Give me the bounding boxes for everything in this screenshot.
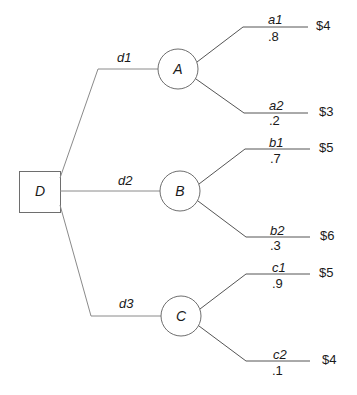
outcome-a1-probability: .8: [268, 30, 279, 44]
outcome-b1-probability: .7: [270, 152, 281, 166]
outcome-b1-line: [199, 149, 310, 184]
decision-d3-label: d3: [119, 297, 133, 311]
outcome-c1-probability: .9: [272, 277, 283, 291]
outcome-a2-payoff: $3: [319, 105, 333, 119]
decision-node-label: D: [25, 184, 55, 198]
outcome-a1-payoff: $4: [316, 19, 330, 33]
outcome-b2-payoff: $6: [320, 229, 334, 243]
outcome-c2-payoff: $4: [322, 353, 336, 367]
outcome-a2-label: a2: [269, 99, 283, 113]
outcome-a2-line: [196, 79, 308, 113]
outcome-b2-line: [198, 201, 310, 237]
branch-d1-line: [60, 69, 158, 178]
outcome-a1-line: [197, 27, 308, 62]
decision-d2-label: d2: [118, 174, 132, 188]
outcome-b1-payoff: $5: [319, 141, 333, 155]
outcome-b1-label: b1: [269, 136, 283, 150]
outcome-b2-label: b2: [270, 224, 284, 238]
outcome-a1-label: a1: [268, 13, 282, 27]
branch-d3-line: [60, 205, 161, 316]
outcome-a2-probability: .2: [269, 114, 280, 128]
outcome-c1-label: c1: [272, 261, 286, 275]
chance-node-c-label: C: [166, 309, 196, 323]
outcome-c2-line: [199, 326, 310, 361]
outcome-c2-label: c2: [273, 348, 287, 362]
outcome-c2-probability: .1: [272, 364, 283, 378]
outcome-c1-line: [200, 274, 310, 309]
chance-node-a-label: A: [163, 62, 193, 76]
outcome-c1-payoff: $5: [319, 266, 333, 280]
decision-d1-label: d1: [117, 51, 131, 65]
chance-node-b-label: B: [165, 184, 195, 198]
outcome-b2-probability: .3: [270, 239, 281, 253]
